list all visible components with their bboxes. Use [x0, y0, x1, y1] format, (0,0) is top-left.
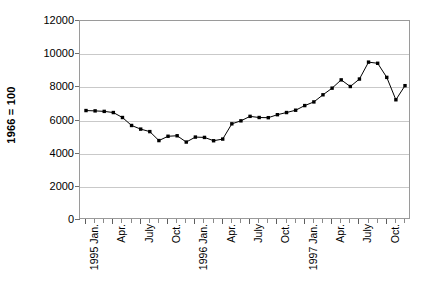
x-axis-tick-mark — [286, 219, 287, 223]
y-axis-tick-labels: 020004000600080001000012000 — [26, 0, 74, 292]
data-point-marker: 1995 Aug.: 5330 — [148, 130, 151, 133]
data-point-marker: 1996 June: 5980 — [239, 119, 242, 122]
x-axis-tick-mark — [322, 219, 323, 223]
y-axis-tick-label: 2000 — [50, 180, 74, 191]
data-point-marker: 1997 Jan.: 6900 — [303, 104, 306, 107]
data-point-marker: 1995 Dec.: 4700 — [185, 140, 188, 143]
plot-area: 1995 Jan.: 66001995 Feb.: 65801995 Mar.:… — [79, 20, 410, 219]
x-axis-tick-mark — [149, 219, 150, 223]
x-axis-tick-mark — [313, 219, 314, 223]
x-axis-tick-mark — [377, 219, 378, 223]
x-axis-tick-label: July — [253, 224, 264, 243]
data-point-marker: 1995 Mar.: 6550 — [103, 110, 106, 113]
x-axis-tick-mark — [368, 219, 369, 223]
x-axis-tick-mark — [121, 219, 122, 223]
data-point-marker: 1995 July: 5480 — [139, 127, 142, 130]
x-axis-tick-labels: 1995 Jan.Apr.JulyOct.1996 Jan.Apr.JulyOc… — [79, 224, 410, 292]
data-point-marker: 1996 Mar.: 4780 — [212, 139, 215, 142]
x-axis-tick-mark — [103, 219, 104, 223]
x-axis-tick-label: 1995 Jan. — [89, 224, 100, 270]
data-point-marker: 1997 Oct.: 8600 — [385, 76, 388, 79]
data-point-marker: 1997 July: 8500 — [358, 77, 361, 80]
x-axis-tick-label: July — [144, 224, 155, 243]
data-point-marker: 1996 Apr.: 4880 — [221, 137, 224, 140]
data-point-marker: 1997 May: 8450 — [340, 78, 343, 81]
data-point-marker: 1997 Apr.: 7950 — [330, 86, 333, 89]
data-point-marker: 1996 May: 5800 — [230, 122, 233, 125]
y-axis-tick-label: 12000 — [43, 15, 74, 26]
x-axis-tick-mark — [258, 219, 259, 223]
x-axis-tick-label: Oct. — [171, 224, 182, 243]
x-axis-tick-label: Apr. — [116, 224, 127, 243]
data-point-marker: 1996 July: 6250 — [248, 115, 251, 118]
data-point-marker: 1995 Jan.: 6600 — [84, 109, 87, 112]
x-axis-tick-mark — [349, 219, 350, 223]
x-axis-tick-label: July — [362, 224, 373, 243]
y-axis-tick-label: 10000 — [43, 48, 74, 59]
x-axis-tick-mark — [240, 219, 241, 223]
x-axis-tick-mark — [340, 219, 341, 223]
x-axis-tick-label: Apr. — [335, 224, 346, 243]
chart-container: 1966 = 100 020004000600080001000012000 1… — [0, 0, 431, 292]
data-point-marker: 1997 Mar.: 7550 — [321, 93, 324, 96]
x-axis-tick-label: Apr. — [226, 224, 237, 243]
data-point-marker: 1995 Sept.: 4790 — [157, 139, 160, 142]
x-axis-tick-mark — [213, 219, 214, 223]
x-axis-tick-mark — [185, 219, 186, 223]
x-axis-tick-mark — [404, 219, 405, 223]
data-point-marker: 1996 Nov.: 6480 — [285, 111, 288, 114]
x-axis-tick-mark — [231, 219, 232, 223]
data-point-marker: 1996 Oct.: 6350 — [276, 113, 279, 116]
data-point-marker: 1997 Dec.: 8100 — [403, 84, 406, 87]
series-line — [86, 62, 405, 142]
x-axis-tick-label: Oct. — [390, 224, 401, 243]
data-point-marker: 1997 Feb.: 7120 — [312, 100, 315, 103]
data-point-marker: 1996 Sept.: 6170 — [267, 116, 270, 119]
y-axis-tick-label: 6000 — [50, 114, 74, 125]
x-axis-tick-mark — [295, 219, 296, 223]
data-point-marker: 1997 Sept.: 9450 — [376, 62, 379, 65]
data-point-marker: 1995 Apr.: 6480 — [112, 111, 115, 114]
x-axis-tick-mark — [94, 219, 95, 223]
x-axis-tick-mark — [267, 219, 268, 223]
x-axis-tick-label: Oct. — [280, 224, 291, 243]
data-point-marker: 1997 Nov.: 7250 — [394, 98, 397, 101]
data-point-marker: 1995 June: 5700 — [130, 124, 133, 127]
y-axis-title: 1966 = 100 — [0, 0, 22, 230]
y-axis-tick-label: 8000 — [50, 81, 74, 92]
x-axis-tick-mark — [131, 219, 132, 223]
x-axis-tick-mark — [176, 219, 177, 223]
x-axis-tick-label: 1996 Jan. — [198, 224, 209, 270]
x-axis-tick-mark — [203, 219, 204, 223]
x-axis-tick-mark — [158, 219, 159, 223]
data-point-marker: 1996 Aug.: 6180 — [257, 116, 260, 119]
data-point-marker: 1995 Oct.: 5050 — [166, 135, 169, 138]
data-point-marker: 1996 Jan.: 5000 — [194, 135, 197, 138]
x-axis-tick-label: 1997 Jan. — [308, 224, 319, 270]
data-point-marker: 1997 Aug.: 9520 — [367, 60, 370, 63]
data-point-marker: 1995 May: 6180 — [121, 116, 124, 119]
data-point-marker: 1996 Dec.: 6620 — [294, 109, 297, 112]
data-series-line: 1995 Jan.: 66001995 Feb.: 65801995 Mar.:… — [80, 21, 410, 219]
data-point-marker: 1995 Nov.: 5080 — [175, 134, 178, 137]
data-point-marker: 1997 June: 8050 — [349, 85, 352, 88]
data-point-marker: 1996 Feb.: 4980 — [203, 136, 206, 139]
x-axis-tick-mark — [395, 219, 396, 223]
y-axis-title-label: 1966 = 100 — [5, 86, 17, 143]
data-point-marker: 1995 Feb.: 6580 — [93, 109, 96, 112]
y-axis-tick-label: 4000 — [50, 147, 74, 158]
